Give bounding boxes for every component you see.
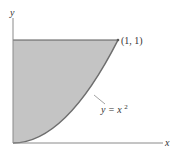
curve-label: y = x 2 bbox=[100, 103, 128, 115]
x-axis-label: x bbox=[164, 137, 170, 148]
curve-label-exponent: 2 bbox=[124, 103, 128, 111]
region-diagram: y x (1, 1) y = x 2 bbox=[0, 0, 182, 154]
y-axis-label: y bbox=[9, 7, 15, 18]
curve-label-leader bbox=[94, 95, 105, 104]
shaded-region bbox=[13, 40, 118, 143]
curve-label-base: y = x bbox=[100, 104, 122, 115]
point-label: (1, 1) bbox=[121, 35, 143, 47]
point-marker bbox=[117, 39, 120, 42]
